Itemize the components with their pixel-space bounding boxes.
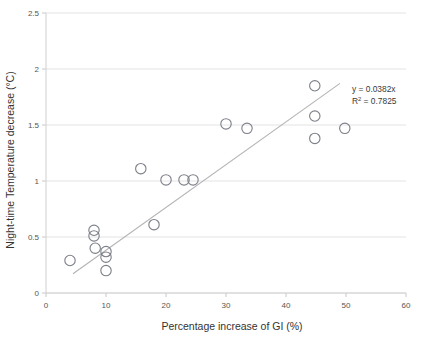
trendline-equation-label: y = 0.0382x (352, 84, 396, 94)
x-axis-title: Percentage increase of GI (%) (161, 320, 302, 332)
x-tick-label: 0 (44, 301, 49, 310)
data-point (310, 133, 320, 143)
x-axis-tick-labels: 0102030405060 (44, 301, 411, 310)
data-point (310, 81, 320, 91)
y-tick-label: 0 (35, 289, 40, 298)
data-point (101, 265, 111, 275)
scatter-chart: 00.511.522.5 0102030405060 Percentage in… (0, 0, 422, 341)
data-point (65, 255, 75, 265)
y-tick-label: 0.5 (28, 233, 40, 242)
trendline-r2-label: R2 = 0.7825 (352, 96, 397, 106)
y-axis-title: Night-time Temperature decrease (°C) (4, 71, 16, 248)
y-tick-label: 1.5 (28, 121, 40, 130)
tick-marks (42, 13, 406, 297)
chart-canvas: 00.511.522.5 0102030405060 Percentage in… (0, 0, 422, 341)
x-tick-label: 30 (222, 301, 231, 310)
y-tick-label: 1 (35, 177, 40, 186)
x-tick-label: 20 (162, 301, 171, 310)
x-tick-label: 10 (102, 301, 111, 310)
y-tick-label: 2.5 (28, 9, 40, 18)
data-point (136, 163, 146, 173)
x-tick-label: 50 (342, 301, 351, 310)
x-tick-label: 60 (402, 301, 411, 310)
x-tick-label: 40 (282, 301, 291, 310)
data-point (310, 111, 320, 121)
r2-suffix: = 0.7825 (361, 96, 397, 106)
y-axis-tick-labels: 00.511.522.5 (28, 9, 40, 298)
trendline (73, 83, 340, 273)
data-point (221, 119, 231, 129)
y-tick-label: 2 (35, 65, 40, 74)
data-point (90, 243, 100, 253)
data-point (149, 219, 159, 229)
data-point (161, 175, 171, 185)
